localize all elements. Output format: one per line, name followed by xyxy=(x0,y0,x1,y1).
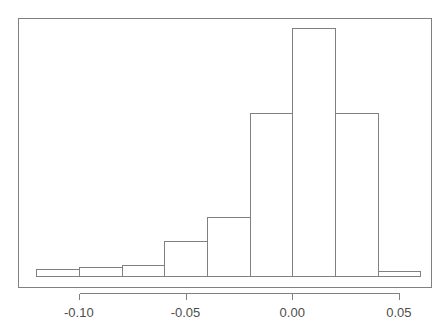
plot-canvas: -0.10-0.050.000.05 xyxy=(0,0,447,329)
x-axis-tick-labels: -0.10-0.050.000.05 xyxy=(64,305,412,320)
x-axis-tick-label: 0.00 xyxy=(280,305,305,320)
histogram-bar xyxy=(37,270,80,277)
histogram-bar xyxy=(379,272,421,277)
x-axis-tick-label: 0.05 xyxy=(386,305,411,320)
histogram-bar xyxy=(80,268,123,277)
histogram-bar xyxy=(336,114,379,277)
histogram-bar xyxy=(208,218,251,277)
histogram-bar xyxy=(123,266,165,277)
x-axis-tick-label: -0.05 xyxy=(171,305,201,320)
histogram-bar xyxy=(293,29,336,277)
histogram-bar xyxy=(165,242,208,277)
x-axis-tick-label: -0.10 xyxy=(64,305,94,320)
histogram-bar xyxy=(251,114,293,277)
x-axis xyxy=(80,294,400,300)
histogram-figure: -0.10-0.050.000.05 xyxy=(0,0,447,329)
histogram-bars xyxy=(37,29,421,277)
